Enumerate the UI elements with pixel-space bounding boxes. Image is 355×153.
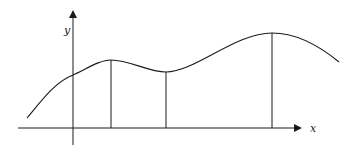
function-curve bbox=[27, 33, 339, 118]
x-axis-label: x bbox=[310, 122, 317, 135]
vertical-ordinate-lines bbox=[111, 33, 272, 128]
function-graph: y x bbox=[0, 0, 355, 153]
y-axis-label: y bbox=[63, 24, 71, 37]
